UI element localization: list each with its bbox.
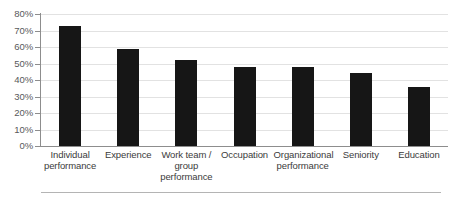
category-label-line: Education	[390, 149, 448, 160]
category-label: Occupation	[215, 149, 273, 160]
bar	[59, 26, 81, 146]
y-axis-tick-label: 30%	[1, 92, 33, 102]
y-axis-tick	[35, 130, 40, 131]
category-label-line: group	[157, 160, 215, 171]
y-axis-tick-label: 0%	[1, 141, 33, 151]
category-label: Experience	[99, 149, 157, 160]
y-axis-tick	[35, 47, 40, 48]
category-label-line: Individual	[41, 149, 99, 160]
category-label-line: performance	[274, 160, 332, 171]
bar	[350, 73, 372, 146]
category-label: Organizationalperformance	[274, 149, 332, 171]
y-axis-tick	[35, 113, 40, 114]
category-label-line: performance	[157, 171, 215, 182]
bar	[175, 60, 197, 146]
y-axis-tick-label: 10%	[1, 125, 33, 135]
y-axis-tick-label: 40%	[1, 75, 33, 85]
category-label-line: Occupation	[215, 149, 273, 160]
category-label-line: Seniority	[332, 149, 390, 160]
category-label-line: performance	[41, 160, 99, 171]
x-axis-category-labels: IndividualperformanceExperienceWork team…	[41, 149, 448, 193]
category-label-line: Work team /	[157, 149, 215, 160]
category-label: Work team /groupperformance	[157, 149, 215, 183]
y-axis-tick-label: 50%	[1, 59, 33, 69]
category-label-line: Experience	[99, 149, 157, 160]
y-axis-tick	[35, 31, 40, 32]
x-axis-line	[40, 146, 448, 147]
y-axis-tick	[35, 64, 40, 65]
category-label-line: Organizational	[274, 149, 332, 160]
y-axis-tick-label: 70%	[1, 26, 33, 36]
footer-divider	[41, 192, 441, 193]
bar	[292, 67, 314, 146]
y-axis-tick	[35, 14, 40, 15]
category-label: Individualperformance	[41, 149, 99, 171]
category-label: Education	[390, 149, 448, 160]
y-axis-tick-label: 60%	[1, 42, 33, 52]
bar	[408, 87, 430, 146]
y-axis-tick-labels: 0%10%20%30%40%50%60%70%80%	[0, 0, 33, 201]
bar	[117, 49, 139, 146]
y-axis-tick	[35, 80, 40, 81]
y-axis-tick	[35, 97, 40, 98]
bar-series	[41, 0, 448, 146]
y-axis-tick	[35, 146, 40, 147]
y-axis-tick-label: 80%	[1, 9, 33, 19]
bar	[234, 67, 256, 146]
bar-chart-figure: 0%10%20%30%40%50%60%70%80% Individualper…	[0, 0, 455, 201]
category-label: Seniority	[332, 149, 390, 160]
y-axis-tick-label: 20%	[1, 108, 33, 118]
